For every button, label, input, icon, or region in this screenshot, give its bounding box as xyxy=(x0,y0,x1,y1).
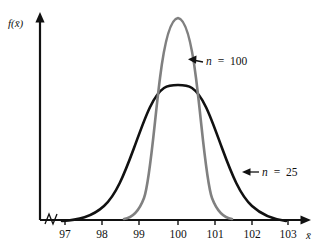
annotation-n-100-text: n = 100 xyxy=(206,55,248,67)
tick-label-99: 99 xyxy=(133,228,145,240)
curve-n-100 xyxy=(124,18,232,219)
x-axis-label: x̄ xyxy=(305,229,311,241)
tick-label-102: 102 xyxy=(243,228,261,240)
tick-label-97: 97 xyxy=(59,228,71,240)
annotation-n-100-value: 100 xyxy=(230,55,248,67)
y-axis-label: f(x̄) xyxy=(8,17,24,30)
annotation-n-25-value: 25 xyxy=(286,166,298,178)
y-axis-arrowhead xyxy=(35,12,44,23)
tick-label-103: 103 xyxy=(279,228,297,240)
figure-container: standard deviations. 97 98 99 100 xyxy=(0,0,322,250)
x-axis-arrowhead xyxy=(301,215,312,224)
annotation-n-25-arrowhead xyxy=(242,168,251,176)
curve-n-25 xyxy=(62,85,286,221)
tick-label-101: 101 xyxy=(206,228,224,240)
annotation-n-100-symbol: n xyxy=(206,55,212,67)
tick-label-100: 100 xyxy=(169,228,187,240)
axis-break-icon xyxy=(45,214,57,224)
annotation-n-100-equals: = xyxy=(218,55,225,67)
annotation-n-25-equals: = xyxy=(274,166,281,178)
annotation-n-25: n = 25 xyxy=(242,166,298,178)
annotation-n-25-symbol: n xyxy=(262,166,268,178)
tick-label-98: 98 xyxy=(96,228,108,240)
x-axis-tick-labels: 97 98 99 100 101 102 103 xyxy=(59,228,297,240)
annotation-n-25-text: n = 25 xyxy=(262,166,298,178)
normal-distribution-chart: 97 98 99 100 101 102 103 f(x̄) x̄ n = 10… xyxy=(0,0,322,250)
annotation-n-100: n = 100 xyxy=(188,55,248,67)
